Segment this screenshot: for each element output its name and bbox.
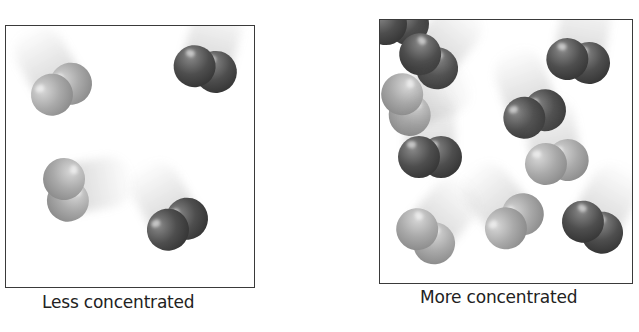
more-concentrated-caption: More concentrated — [420, 287, 577, 307]
less-concentrated-panel — [5, 25, 255, 288]
atom-sphere — [398, 136, 440, 178]
more-concentrated-panel — [379, 19, 633, 284]
dark-molecule — [398, 136, 462, 180]
less-concentrated-caption: Less concentrated — [42, 292, 194, 312]
